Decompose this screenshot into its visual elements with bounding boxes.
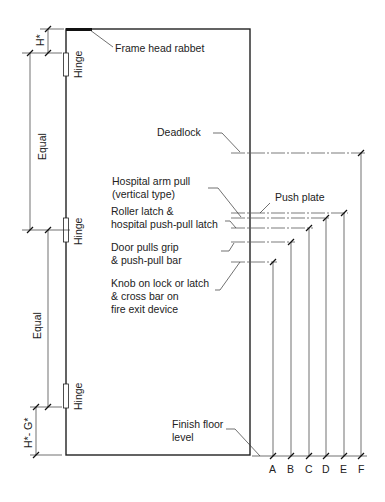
hinge-label-top: Hinge xyxy=(72,50,84,78)
equal-upper-label: Equal xyxy=(36,133,48,160)
hinge-bottom-icon xyxy=(64,384,69,408)
knob-label-1: Knob on lock or latch xyxy=(111,277,209,289)
h-star-label: H* xyxy=(34,34,46,46)
hospital-arm-pull-label-1: Hospital arm pull xyxy=(112,175,190,187)
left-dimensions: H* Equal Equal H*- G* xyxy=(22,26,70,458)
roller-latch-label-1: Roller latch & xyxy=(111,205,173,217)
column-letters: A B C D E F xyxy=(269,463,364,475)
knob-label-3: fire exit device xyxy=(111,303,178,315)
push-plate-label: Push plate xyxy=(275,191,325,203)
hinge-top-icon xyxy=(64,53,69,76)
column-letter-b: B xyxy=(287,463,294,475)
callouts: Deadlock Hospital arm pull (vertical typ… xyxy=(111,126,325,456)
column-letter-c: C xyxy=(305,463,313,475)
door-pulls-label-2: & push-pull bar xyxy=(111,254,182,266)
deadlock-label: Deadlock xyxy=(157,126,202,138)
roller-latch-label-2: hospital push-pull latch xyxy=(111,218,218,230)
hinge-label-middle: Hinge xyxy=(72,217,84,245)
finish-floor-label-2: level xyxy=(172,431,194,443)
column-letter-d: D xyxy=(322,463,330,475)
door-hardware-diagram: Frame head rabbet Hinge Hinge Hinge H* E… xyxy=(0,0,385,502)
column-letter-e: E xyxy=(340,463,347,475)
hinge-label-bottom: Hinge xyxy=(72,382,84,410)
knob-label-2: & cross bar on xyxy=(111,290,179,302)
door-pulls-label-1: Door pulls grip xyxy=(111,241,179,253)
column-letter-f: F xyxy=(358,463,364,475)
frame-head-rabbet-callout: Frame head rabbet xyxy=(90,30,204,54)
h-minus-g-label: H*- G* xyxy=(22,418,34,448)
hospital-arm-pull-label-2: (vertical type) xyxy=(112,188,175,200)
column-letter-a: A xyxy=(269,463,276,475)
equal-lower-label: Equal xyxy=(31,312,43,339)
frame-head-rabbet-label: Frame head rabbet xyxy=(115,42,204,54)
finish-floor-label-1: Finish floor xyxy=(172,418,224,430)
